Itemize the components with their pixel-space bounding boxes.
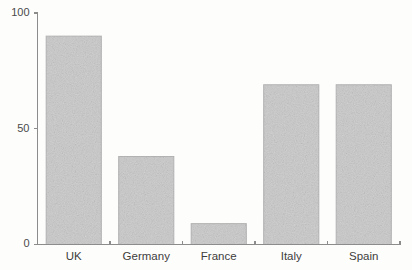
y-tick-label-100: 100 xyxy=(11,6,29,18)
y-tick-label-50: 50 xyxy=(17,122,29,134)
x-tick-label-france: France xyxy=(201,250,237,262)
bar-france xyxy=(191,224,246,245)
x-tick-labels: UKGermanyFranceItalySpain xyxy=(66,250,379,262)
bar-italy xyxy=(264,85,319,245)
y-tick-labels: 050100 xyxy=(11,6,29,250)
bar-spain xyxy=(336,85,391,245)
bar-uk xyxy=(46,36,101,244)
x-tick-label-spain: Spain xyxy=(349,250,378,262)
y-tick-group xyxy=(34,13,38,245)
plot-area: 050100 UKGermanyFranceItalySpain xyxy=(0,0,412,270)
bar-germany xyxy=(119,157,174,245)
bar-chart: 050100 UKGermanyFranceItalySpain xyxy=(0,0,412,270)
x-tick-label-italy: Italy xyxy=(281,250,302,262)
y-tick-label-0: 0 xyxy=(23,237,29,249)
bars-group xyxy=(46,36,391,244)
x-tick-label-uk: UK xyxy=(66,250,82,262)
chart-canvas: 050100 UKGermanyFranceItalySpain xyxy=(0,0,412,270)
x-tick-label-germany: Germany xyxy=(123,250,171,262)
